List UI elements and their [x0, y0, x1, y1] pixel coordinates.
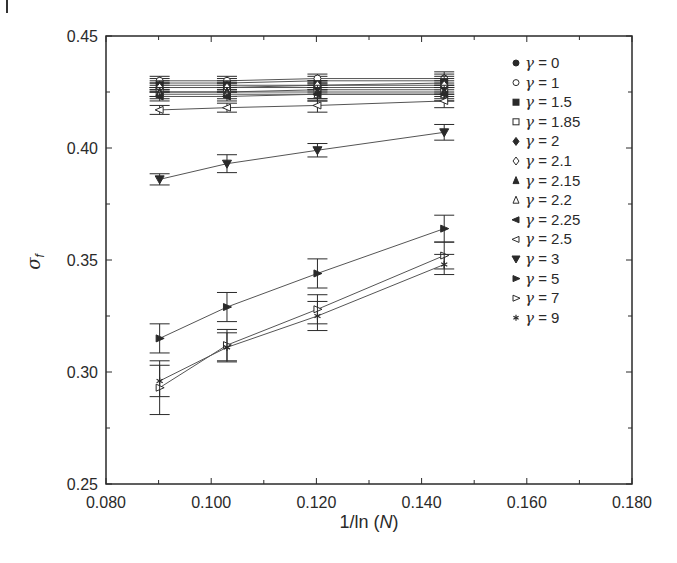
series-7	[150, 242, 455, 414]
series-9	[150, 254, 455, 396]
legend-marker-icon	[513, 295, 520, 301]
legend-item: γ = 7	[513, 289, 559, 307]
x-tick-label: 0.140	[402, 494, 442, 511]
series-line	[160, 264, 445, 380]
legend-item: γ = 9	[513, 309, 559, 327]
legend: γ = 0γ = 1γ = 1.5γ = 1.85γ = 2γ = 2.1γ =…	[512, 54, 580, 327]
x-tick-label: 0.120	[296, 494, 336, 511]
legend-item: γ = 0	[513, 54, 559, 72]
data-point-marker	[441, 261, 447, 268]
legend-label: γ = 2	[525, 132, 559, 150]
legend-marker-icon	[512, 217, 519, 223]
legend-marker-icon	[513, 60, 519, 66]
legend-marker-icon	[513, 80, 519, 86]
legend-label: γ = 3	[525, 250, 559, 268]
legend-label: γ = 1	[525, 74, 559, 92]
legend-marker-icon	[513, 137, 519, 145]
y-tick-label: 0.40	[67, 140, 98, 157]
series-3	[150, 124, 455, 184]
legend-item: γ = 2.25	[512, 211, 580, 229]
legend-item: γ = 5	[513, 270, 559, 288]
legend-marker-icon	[513, 177, 519, 184]
legend-marker-icon	[512, 256, 520, 263]
legend-label: γ = 0	[525, 54, 559, 72]
legend-item: γ = 1.5	[513, 93, 572, 111]
legend-label: γ = 2.25	[525, 211, 580, 229]
legend-item: γ = 2.1	[513, 152, 572, 170]
legend-label: γ = 5	[525, 270, 559, 288]
legend-label: γ = 2.15	[525, 172, 580, 190]
legend-label: γ = 1.5	[525, 93, 572, 111]
data-point-marker	[155, 176, 164, 184]
legend-item: γ = 1	[513, 74, 559, 92]
legend-label: γ = 2.5	[525, 230, 572, 248]
y-axis-title: σf	[23, 253, 47, 270]
legend-item: γ = 2.15	[513, 172, 580, 190]
legend-marker-icon	[513, 157, 519, 165]
legend-marker-icon	[513, 99, 519, 105]
series-line	[160, 132, 445, 179]
legend-label: γ = 7	[525, 289, 559, 307]
legend-label: γ = 2.2	[525, 191, 572, 209]
x-axis-title: 1/ln (N)	[339, 512, 398, 532]
legend-marker-icon	[513, 196, 519, 203]
y-tick-label: 0.45	[67, 28, 98, 45]
series-5	[150, 215, 455, 353]
legend-label: γ = 9	[525, 309, 559, 327]
legend-marker-icon	[513, 276, 520, 282]
data-point-marker	[157, 377, 163, 384]
x-tick-label: 0.080	[86, 494, 126, 511]
legend-item: γ = 1.85	[513, 113, 580, 131]
legend-item: γ = 2	[513, 132, 559, 150]
series-line	[160, 101, 445, 110]
legend-item: γ = 2.2	[513, 191, 572, 209]
y-tick-label: 0.30	[67, 364, 98, 381]
legend-item: γ = 3	[512, 250, 559, 268]
legend-marker-icon	[513, 119, 519, 125]
legend-item: γ = 2.5	[512, 230, 572, 248]
data-point-marker	[314, 313, 320, 320]
line-chart: 0.0800.1000.1200.1400.1600.180 0.250.300…	[0, 0, 677, 563]
x-tick-label: 0.160	[507, 494, 547, 511]
legend-marker-icon	[513, 315, 518, 321]
legend-label: γ = 2.1	[525, 152, 572, 170]
series-line	[160, 229, 445, 339]
x-tick-label: 0.180	[612, 494, 652, 511]
x-tick-label: 0.100	[191, 494, 231, 511]
series-layer	[150, 72, 455, 415]
y-tick-label: 0.35	[67, 252, 98, 269]
y-tick-label: 0.25	[67, 476, 98, 493]
series-2-5	[150, 94, 455, 114]
legend-marker-icon	[512, 236, 519, 242]
legend-label: γ = 1.85	[525, 113, 580, 131]
